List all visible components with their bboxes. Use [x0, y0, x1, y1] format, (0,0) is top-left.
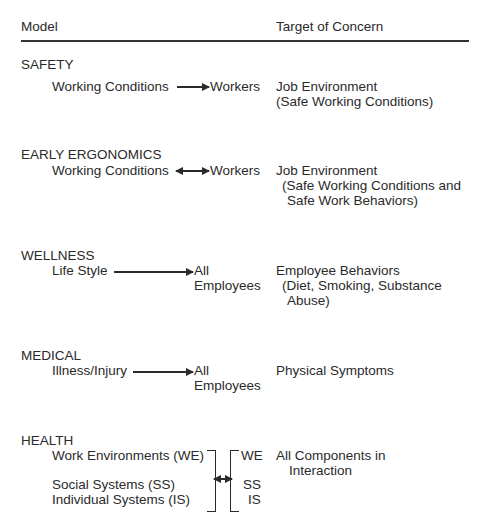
recipient: Employees: [194, 378, 261, 393]
header-rule: [21, 40, 469, 42]
model-name: WELLNESS: [21, 248, 95, 263]
recipient: IS: [248, 492, 261, 507]
target-line: (Diet, Smoking, Substance: [282, 278, 442, 293]
target-line: Employee Behaviors: [276, 263, 400, 278]
recipient: Employees: [194, 278, 261, 293]
target-line: Job Environment: [276, 79, 377, 94]
target-line: Interaction: [289, 463, 352, 478]
model-name: EARLY ERGONOMICS: [21, 147, 162, 162]
source: Working Conditions: [52, 79, 169, 94]
target-line: (Safe Working Conditions and: [282, 178, 461, 193]
header-target: Target of Concern: [276, 19, 383, 34]
recipient: All: [194, 263, 209, 278]
target-line: Safe Work Behaviors): [287, 193, 418, 208]
source: Illness/Injury: [52, 363, 127, 378]
recipient: All: [194, 363, 209, 378]
model-name: HEALTH: [21, 433, 73, 448]
source: Working Conditions: [52, 163, 169, 178]
source: Life Style: [52, 263, 108, 278]
recipient: SS: [243, 477, 261, 492]
recipient: WE: [241, 448, 263, 463]
source: Individual Systems (IS): [52, 492, 190, 507]
source: Work Environments (WE): [52, 448, 204, 463]
arrow-right-icon: [133, 371, 193, 373]
model-name: MEDICAL: [21, 348, 81, 363]
recipient: Workers: [210, 163, 260, 178]
target-line: (Safe Working Conditions): [276, 94, 433, 109]
target-line: Abuse): [287, 293, 330, 308]
target-line: All Components in: [276, 448, 386, 463]
arrow-bidirectional-icon: [214, 478, 232, 480]
target-line: Physical Symptoms: [276, 363, 394, 378]
header-model: Model: [21, 19, 58, 34]
model-name: SAFETY: [21, 57, 74, 72]
arrow-right-icon: [114, 271, 193, 273]
source: Social Systems (SS): [52, 477, 175, 492]
target-line: Job Environment: [276, 163, 377, 178]
recipient: Workers: [210, 79, 260, 94]
arrow-bidirectional-icon: [176, 170, 209, 172]
arrow-right-icon: [177, 86, 209, 88]
